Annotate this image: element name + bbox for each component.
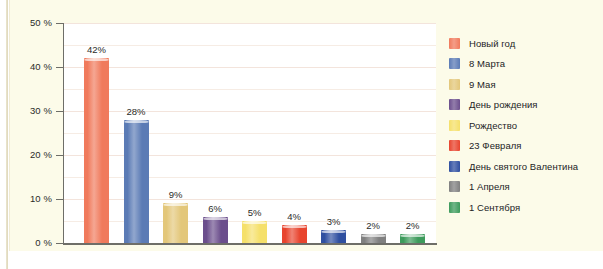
legend-item-label: День святого Валентина [469, 161, 578, 172]
bar [361, 234, 386, 243]
gridline [64, 45, 436, 46]
legend-item[interactable]: 1 Апреля [449, 177, 599, 198]
bar-body [84, 58, 109, 243]
legend-item[interactable]: Новый год [449, 33, 599, 54]
bar [242, 221, 267, 243]
gridline [64, 177, 436, 178]
bar-value-label: 6% [193, 203, 237, 214]
legend-item-label: Новый год [469, 38, 515, 49]
x-axis-line [63, 243, 437, 245]
bar-chart-figure: 0 %10 %20 %30 %40 %50 % 42%28%9%6%5%4%3%… [0, 0, 603, 269]
legend-item-label: 9 Мая [469, 79, 496, 90]
y-axis-tick-label: 40 % [6, 61, 52, 72]
legend-item-label: 8 Марта [469, 58, 505, 69]
gridline [64, 67, 436, 68]
bar-top-cap [400, 234, 425, 237]
bar-body [203, 217, 228, 243]
bar-top-cap [84, 58, 109, 61]
legend-color-swatch-icon [449, 38, 460, 49]
bar-value-label: 4% [272, 211, 316, 222]
bar-body [400, 234, 425, 243]
legend-item[interactable]: День рождения [449, 95, 599, 116]
legend-color-swatch-icon [449, 140, 460, 151]
legend-color-swatch-icon [449, 181, 460, 192]
bar [282, 225, 307, 243]
legend-item[interactable]: 8 Марта [449, 54, 599, 75]
legend-color-swatch-icon [449, 161, 460, 172]
gridline [64, 199, 436, 200]
gridline [64, 23, 436, 24]
bar [203, 217, 228, 243]
bar [400, 234, 425, 243]
bar-value-label: 3% [312, 216, 356, 227]
legend-item-label: 23 Февраля [469, 140, 522, 151]
legend-color-swatch-icon [449, 79, 460, 90]
chart-legend: Новый год8 Марта9 МаяДень рожденияРождес… [449, 33, 599, 218]
gridline [64, 89, 436, 90]
bar [84, 58, 109, 243]
legend-item[interactable]: 23 Февраля [449, 136, 599, 157]
legend-color-swatch-icon [449, 202, 460, 213]
legend-color-swatch-icon [449, 120, 460, 131]
legend-item-label: Рождество [469, 120, 517, 131]
y-axis-tick-label: 10 % [6, 193, 52, 204]
legend-item[interactable]: День святого Валентина [449, 156, 599, 177]
y-axis-tick-label: 50 % [6, 17, 52, 28]
y-axis-tick-label: 0 % [6, 237, 52, 248]
legend-color-swatch-icon [449, 58, 460, 69]
bar-top-cap [321, 230, 346, 233]
bar-value-label: 28% [114, 106, 158, 117]
gridline [64, 133, 436, 134]
bar-body [282, 225, 307, 243]
bar-body [163, 203, 188, 243]
bar [321, 230, 346, 243]
bar-value-label: 5% [233, 207, 277, 218]
bar-top-cap [361, 234, 386, 237]
y-axis-labels: 0 %10 %20 %30 %40 %50 % [0, 0, 52, 269]
legend-item-label: День рождения [469, 99, 538, 110]
bar-top-cap [282, 225, 307, 228]
bar [124, 120, 149, 243]
bar-value-label: 2% [391, 220, 435, 231]
legend-item[interactable]: 9 Мая [449, 74, 599, 95]
legend-item-label: 1 Апреля [469, 181, 510, 192]
bar-value-label: 9% [154, 189, 198, 200]
legend-color-swatch-icon [449, 99, 460, 110]
bar-top-cap [124, 120, 149, 123]
legend-item-label: 1 Сентября [469, 202, 520, 213]
bar-value-label: 42% [75, 44, 119, 55]
gridline [64, 155, 436, 156]
y-axis-tick-label: 20 % [6, 149, 52, 160]
y-axis-tick-label: 30 % [6, 105, 52, 116]
bar-top-cap [203, 217, 228, 220]
bar-body [124, 120, 149, 243]
bar-body [321, 230, 346, 243]
bar-top-cap [163, 203, 188, 206]
bar [163, 203, 188, 243]
legend-item[interactable]: 1 Сентября [449, 197, 599, 218]
bar-body [361, 234, 386, 243]
bar-body [242, 221, 267, 243]
legend-item[interactable]: Рождество [449, 115, 599, 136]
bar-top-cap [242, 221, 267, 224]
bar-value-label: 2% [351, 220, 395, 231]
